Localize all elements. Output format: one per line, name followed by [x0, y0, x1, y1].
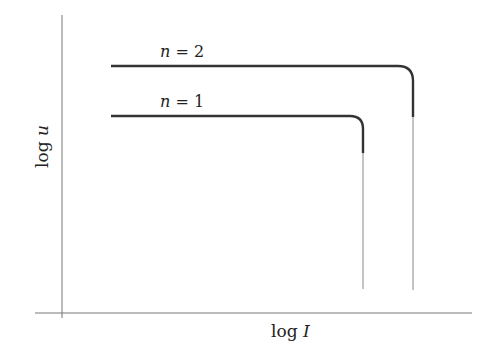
diagram-canvas: n = 2 n = 1 log I log u: [0, 0, 493, 358]
label-n1: n = 1: [160, 92, 204, 111]
curve-n2: [111, 66, 413, 290]
x-axis-label: log I: [271, 321, 310, 341]
label-n2: n = 2: [160, 42, 204, 61]
y-axis-label: log u: [32, 125, 52, 168]
curve-n1: [111, 116, 363, 289]
